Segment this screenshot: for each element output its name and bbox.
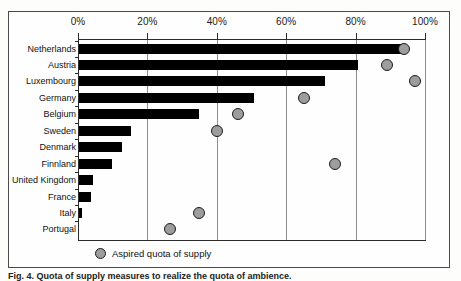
xtick-label-60: 60% [276,16,296,27]
figure-caption: Fig. 4. Quota of supply measures to real… [8,271,292,281]
marker-luxembourg [409,75,421,87]
bar-france [79,192,91,202]
ytick-mark [75,57,79,58]
bar-sweden [79,126,131,136]
category-label-france: France [48,192,76,202]
legend-marker-icon [95,248,106,259]
chart-row: Sweden [0,124,461,141]
bar-belgium [79,109,199,119]
chart-row: Netherlands [0,42,461,59]
ytick-mark [75,90,79,91]
chart-legend: Aspired quota of supply [95,248,211,259]
chart-row: Italy [0,206,461,223]
bar-finnland [79,159,112,169]
chart-row: France [0,190,461,207]
axis-bottom-line [78,240,426,241]
chart-row: Belgium [0,107,461,124]
chart-row: Austria [0,58,461,75]
chart-row: Finnland [0,157,461,174]
marker-belgium [232,108,244,120]
category-label-luxembourg: Luxembourg [26,76,76,86]
ytick-mark [75,106,79,107]
marker-italy [193,207,205,219]
bar-denmark [79,142,122,152]
ytick-mark [75,205,79,206]
category-label-portugal: Portugal [42,224,76,234]
bar-netherlands [79,44,403,54]
bar-germany [79,93,254,103]
marker-portugal [164,223,176,235]
xtick-label-20: 20% [137,16,157,27]
xtick-label-0: 0% [71,16,86,27]
category-label-sweden: Sweden [43,126,76,136]
xtick-label-100: 100% [412,16,438,27]
axis-top-line [78,39,426,40]
ytick-mark [75,73,79,74]
ytick-mark [75,189,79,190]
marker-finnland [329,158,341,170]
figure-root: 0% 20% 40% 60% 80% 100% NetherlandsAustr… [0,0,461,281]
marker-netherlands [398,43,410,55]
chart-row: Luxembourg [0,74,461,91]
category-label-italy: Italy [59,208,76,218]
xtick-label-80: 80% [345,16,365,27]
chart-row: United Kingdom [0,173,461,190]
bar-austria [79,60,358,70]
category-label-finnland: Finnland [41,159,76,169]
category-label-united-kingdom: United Kingdom [12,175,76,185]
marker-germany [298,92,310,104]
ytick-mark [75,139,79,140]
marker-sweden [211,125,223,137]
ytick-mark [75,156,79,157]
chart-row: Portugal [0,222,461,239]
category-label-austria: Austria [48,60,76,70]
category-label-netherlands: Netherlands [27,44,76,54]
bar-italy [79,208,82,218]
chart-row: Denmark [0,140,461,157]
category-label-denmark: Denmark [39,142,76,152]
bar-united-kingdom [79,175,93,185]
category-label-belgium: Belgium [43,109,76,119]
ytick-mark [75,123,79,124]
chart-row: Germany [0,91,461,108]
xtick-label-40: 40% [207,16,227,27]
ytick-mark [75,221,79,222]
legend-label: Aspired quota of supply [112,248,211,259]
category-label-germany: Germany [39,93,76,103]
ytick-mark [75,41,79,42]
marker-austria [381,59,393,71]
ytick-mark [75,172,79,173]
bar-luxembourg [79,76,325,86]
